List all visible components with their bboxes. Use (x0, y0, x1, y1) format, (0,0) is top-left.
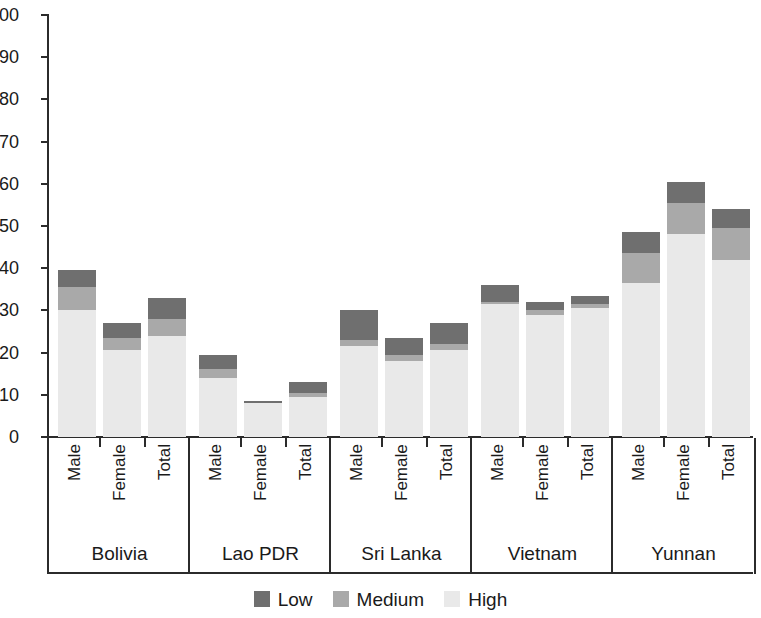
bar-sri-lanka-female[interactable] (385, 338, 423, 437)
bar-segment-high (526, 315, 564, 437)
bar-segment-low (199, 355, 237, 370)
y-tick-label-90: 90 (0, 48, 19, 66)
bar-segment-high (712, 260, 750, 437)
bar-segment-low (289, 382, 327, 393)
legend-label: High (468, 590, 507, 609)
bar-segment-high (622, 283, 660, 437)
legend-swatch-low (254, 591, 270, 607)
plot-area (48, 15, 748, 437)
x-group-separator (47, 438, 49, 574)
bar-segment-high (58, 310, 96, 437)
x-group-label: Lao PDR (192, 544, 329, 564)
bar-segment-medium (58, 287, 96, 310)
bar-segment-medium (103, 338, 141, 351)
x-group-separator (470, 438, 472, 574)
y-tick-label-60: 60 (0, 175, 19, 193)
bar-segment-high (667, 234, 705, 437)
bar-segment-low (571, 296, 609, 304)
x-group-separator (754, 438, 756, 574)
bar-segment-high (199, 378, 237, 437)
bar-segment-high (148, 336, 186, 437)
bar-segment-medium (712, 228, 750, 260)
bar-lao-pdr-male[interactable] (199, 355, 237, 437)
bar-segment-low (340, 310, 378, 340)
bar-segment-low (148, 298, 186, 319)
x-group-label: Vietnam (474, 544, 611, 564)
bar-segment-low (385, 338, 423, 355)
bar-segment-low (622, 232, 660, 253)
bars-layer (48, 15, 748, 437)
bar-segment-low (526, 302, 564, 310)
legend-item-medium[interactable]: Medium (333, 590, 425, 609)
bar-bolivia-female[interactable] (103, 323, 141, 437)
y-tick-label-40: 40 (0, 259, 19, 277)
bar-bolivia-male[interactable] (58, 270, 96, 437)
bar-segment-low (430, 323, 468, 344)
legend-swatch-high (444, 591, 460, 607)
bar-segment-medium (622, 253, 660, 283)
x-group-lao-pdr: MaleFemaleTotalLao PDR (192, 438, 329, 574)
bar-lao-pdr-female[interactable] (244, 401, 282, 437)
x-axis-label-band: MaleFemaleTotalBoliviaMaleFemaleTotalLao… (47, 438, 753, 574)
x-group-vietnam: MaleFemaleTotalVietnam (474, 438, 611, 574)
bar-segment-medium (667, 203, 705, 235)
y-tick-label-20: 20 (0, 344, 19, 362)
legend-label: Medium (357, 590, 425, 609)
x-group-separator (329, 438, 331, 574)
bar-vietnam-female[interactable] (526, 302, 564, 437)
x-group-label: Sri Lanka (333, 544, 470, 564)
legend-item-low[interactable]: Low (254, 590, 313, 609)
bar-yunnan-female[interactable] (667, 182, 705, 437)
x-group-yunnan: MaleFemaleTotalYunnan (615, 438, 752, 574)
x-group-separator (611, 438, 613, 574)
legend-item-high[interactable]: High (444, 590, 507, 609)
y-tick-label-10: 10 (0, 386, 19, 404)
legend-label: Low (278, 590, 313, 609)
bar-vietnam-total[interactable] (571, 296, 609, 437)
y-tick-label-70: 70 (0, 133, 19, 151)
bar-segment-medium (199, 369, 237, 377)
bar-segment-high (481, 304, 519, 437)
bar-sri-lanka-total[interactable] (430, 323, 468, 437)
bar-segment-high (430, 350, 468, 437)
y-tick-label-80: 80 (0, 90, 19, 108)
x-group-bolivia: MaleFemaleTotalBolivia (51, 438, 188, 574)
y-tick-label-0: 0 (0, 428, 19, 446)
bar-segment-low (667, 182, 705, 203)
bar-segment-medium (148, 319, 186, 336)
bar-segment-high (244, 403, 282, 437)
label-band-bottom-rule (47, 572, 753, 574)
bar-segment-high (103, 350, 141, 437)
bar-yunnan-male[interactable] (622, 232, 660, 437)
bar-segment-low (103, 323, 141, 338)
bar-segment-low (712, 209, 750, 228)
x-group-label: Bolivia (51, 544, 188, 564)
bar-segment-low (481, 285, 519, 302)
bar-segment-high (340, 346, 378, 437)
bar-segment-low (58, 270, 96, 287)
legend-swatch-medium (333, 591, 349, 607)
bar-segment-high (571, 308, 609, 437)
bar-sri-lanka-male[interactable] (340, 310, 378, 437)
y-tick-label-50: 50 (0, 217, 19, 235)
bar-segment-high (385, 361, 423, 437)
bar-segment-high (289, 397, 327, 437)
bar-lao-pdr-total[interactable] (289, 382, 327, 437)
chart-canvas: 1009080706050403020100 MaleFemaleTotalBo… (0, 0, 761, 618)
x-group-label: Yunnan (615, 544, 752, 564)
chart-legend: LowMediumHigh (0, 586, 761, 612)
x-group-sri-lanka: MaleFemaleTotalSri Lanka (333, 438, 470, 574)
bar-vietnam-male[interactable] (481, 285, 519, 437)
bar-bolivia-total[interactable] (148, 298, 186, 437)
bar-yunnan-total[interactable] (712, 209, 750, 437)
y-tick-label-100: 100 (0, 6, 19, 24)
y-tick-label-30: 30 (0, 301, 19, 319)
x-group-separator (188, 438, 190, 574)
